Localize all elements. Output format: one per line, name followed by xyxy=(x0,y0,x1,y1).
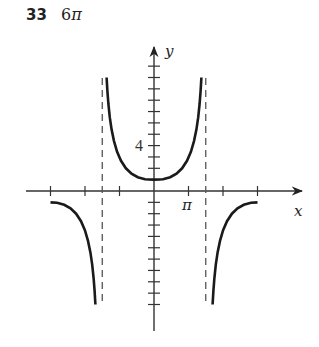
y-axis-label: y xyxy=(164,42,174,60)
x-tick-label-pi: π xyxy=(181,196,193,214)
curve-left-branch xyxy=(51,202,96,304)
curve-right-branch xyxy=(213,202,258,304)
x-axis-label: x xyxy=(294,202,303,220)
y-tick-label-4: 4 xyxy=(135,137,143,154)
graph: y x 4 π xyxy=(0,0,319,347)
